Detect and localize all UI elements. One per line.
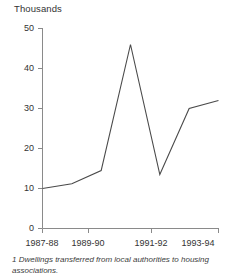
data-series-line: [43, 45, 219, 189]
chart-plot-area: [0, 0, 232, 250]
footnote-text: Dwellings transferred from local authori…: [12, 255, 209, 275]
chart-footnote: 1 Dwellings transferred from local autho…: [12, 255, 226, 276]
chart-figure: Thousands 50 40 30 20 10 0 1987-88 1989-…: [0, 0, 232, 277]
footnote-marker: 1: [12, 255, 16, 264]
